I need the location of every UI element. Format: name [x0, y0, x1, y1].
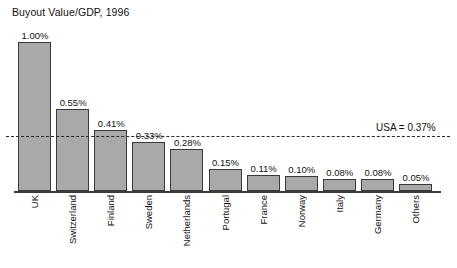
bar[interactable] [94, 130, 127, 191]
bar-group: 0.11%France [247, 175, 280, 191]
bar-category-label: Portugal [220, 195, 231, 230]
bar-category-label-wrap: UK [18, 195, 51, 208]
bar-value-label: 0.55% [60, 97, 87, 108]
bar-group: 1.00%UK [18, 42, 51, 191]
chart-figure: Buyout Value/GDP, 1996 1.00%UK0.55%Switz… [0, 0, 457, 268]
bar-category-label-wrap: Portugal [209, 195, 242, 230]
bar-value-label: 0.08% [326, 167, 353, 178]
bar[interactable] [209, 169, 242, 191]
bar[interactable] [132, 142, 165, 191]
plot-area: 1.00%UK0.55%Switzerland0.41%Finland0.33%… [0, 0, 457, 268]
bar-category-label-wrap: Italy [323, 195, 356, 212]
bar-category-label-wrap: Norway [285, 195, 318, 227]
bar-category-label-wrap: Netherlands [170, 195, 203, 246]
bar-group: 0.10%Norway [285, 176, 318, 191]
bar-group: 0.08%Germany [361, 179, 394, 191]
bar-category-label: Netherlands [181, 195, 192, 246]
bar-category-label: Sweden [143, 195, 154, 229]
bar-group: 0.28%Netherlands [170, 149, 203, 191]
bar-category-label: Switzerland [67, 195, 78, 244]
bar-group: 0.15%Portugal [209, 169, 242, 191]
bar-value-label: 0.08% [364, 167, 391, 178]
bar-category-label: Germany [372, 195, 383, 234]
x-axis-line [14, 191, 441, 193]
bar-group: 0.41%Finland [94, 130, 127, 191]
bar[interactable] [285, 176, 318, 191]
bar-category-label-wrap: Sweden [132, 195, 165, 229]
bar-category-label: Others [410, 195, 421, 224]
bar-group: 0.55%Switzerland [56, 109, 89, 191]
bar-category-label: Italy [334, 195, 345, 212]
bar-category-label-wrap: Finland [94, 195, 127, 226]
bar[interactable] [56, 109, 89, 191]
bar[interactable] [361, 179, 394, 191]
bar-value-label: 0.05% [403, 172, 430, 183]
bar[interactable] [323, 179, 356, 191]
bar[interactable] [18, 42, 51, 191]
bar-category-label-wrap: France [247, 195, 280, 225]
bar-value-label: 0.10% [288, 164, 315, 175]
bar-value-label: 0.41% [98, 118, 125, 129]
bar-value-label: 0.15% [212, 157, 239, 168]
bar-category-label-wrap: Germany [361, 195, 394, 234]
bar-category-label: Finland [105, 195, 116, 226]
bar[interactable] [247, 175, 280, 191]
bar-category-label: UK [29, 195, 40, 208]
bar-category-label: France [258, 195, 269, 225]
bar[interactable] [399, 184, 432, 191]
bar-value-label: 0.28% [174, 137, 201, 148]
bar-category-label-wrap: Switzerland [56, 195, 89, 244]
bar-value-label: 0.11% [251, 163, 277, 174]
bar-category-label-wrap: Others [399, 195, 432, 224]
usa-reference-label: USA = 0.37% [374, 122, 438, 134]
bar-category-label: Norway [296, 195, 307, 227]
usa-reference-line [6, 136, 450, 137]
bar-group: 0.33%Sweden [132, 142, 165, 191]
bar[interactable] [170, 149, 203, 191]
bar-group: 0.08%Italy [323, 179, 356, 191]
bar-value-label: 1.00% [22, 30, 49, 41]
bar-group: 0.05%Others [399, 184, 432, 191]
